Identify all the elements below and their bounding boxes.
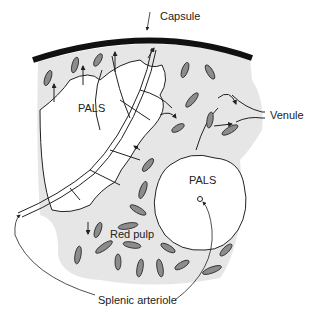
capsule-label: Capsule [160, 10, 200, 22]
pals-lower-region [154, 155, 246, 250]
venule-label: Venule [270, 109, 304, 121]
arteriole-opening [198, 197, 203, 202]
spleen-diagram: Capsule PALS Venule PALS Red pulp Spleni… [0, 0, 310, 316]
pals-lower-label: PALS [189, 174, 216, 186]
splenic-arteriole-label: Splenic arteriole [98, 294, 177, 306]
red-pulp-label: Red pulp [110, 228, 154, 240]
pals-upper-label: PALS [78, 102, 105, 114]
